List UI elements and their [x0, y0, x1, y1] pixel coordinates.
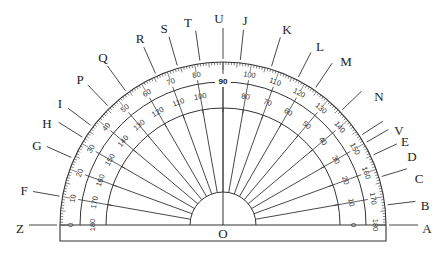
inner-scale-number: 10 [346, 197, 356, 207]
outer-scale-number: 180 [371, 219, 380, 232]
leader-line-d [373, 144, 396, 155]
leader-line-b [388, 201, 416, 204]
leader-line-v [362, 121, 383, 134]
point-label-n: N [374, 89, 384, 104]
leader-line-j [240, 30, 243, 60]
point-label-k: K [282, 22, 292, 37]
point-label-d: D [407, 149, 416, 164]
leader-line-r [144, 47, 156, 73]
point-label-a: A [422, 221, 432, 236]
leader-line-i [68, 108, 90, 125]
leader-line-k [272, 37, 281, 66]
leader-line-q [107, 66, 125, 91]
label-90: 90 [219, 77, 228, 86]
protractor-svg: 0102030405060708010011012013014015016017… [0, 0, 447, 253]
outer-scale-number: 0 [66, 223, 75, 227]
leader-line-l [298, 52, 311, 77]
inner-scale-number: 0 [349, 223, 358, 227]
point-label-m: M [340, 54, 352, 69]
inner-scale-number: 180 [88, 219, 97, 232]
outer-scale-number: 80 [192, 70, 202, 80]
point-label-p: P [76, 72, 83, 87]
point-label-i: I [58, 96, 62, 111]
leader-line-m [316, 63, 332, 87]
point-label-l: L [316, 39, 324, 54]
leader-line-p [88, 85, 108, 106]
point-label-s: S [160, 21, 167, 36]
point-label-c: C [415, 171, 424, 186]
leader-line-t [196, 31, 200, 61]
point-label-b: B [421, 198, 430, 213]
leader-line-n [342, 91, 361, 110]
protractor-diagram: 0102030405060708010011012013014015016017… [0, 0, 447, 253]
point-label-u: U [214, 11, 224, 26]
leader-line-f [33, 192, 59, 197]
point-label-t: T [184, 15, 192, 30]
leader-line-s [169, 37, 177, 66]
outer-scale-number: 10 [68, 194, 78, 204]
center-label-o: O [218, 226, 227, 241]
point-label-r: R [136, 31, 145, 46]
point-label-f: F [20, 183, 27, 198]
point-label-z: Z [16, 221, 24, 236]
leader-line-c [382, 169, 407, 177]
point-label-q: Q [98, 50, 108, 65]
leader-line-h [59, 122, 83, 137]
point-label-j: J [242, 13, 247, 28]
point-label-h: H [42, 116, 51, 131]
leader-line-e [367, 129, 389, 142]
inner-scale-number: 80 [241, 91, 251, 101]
point-label-v: V [394, 123, 404, 138]
point-label-g: G [32, 138, 41, 153]
leader-line-g [47, 146, 72, 157]
